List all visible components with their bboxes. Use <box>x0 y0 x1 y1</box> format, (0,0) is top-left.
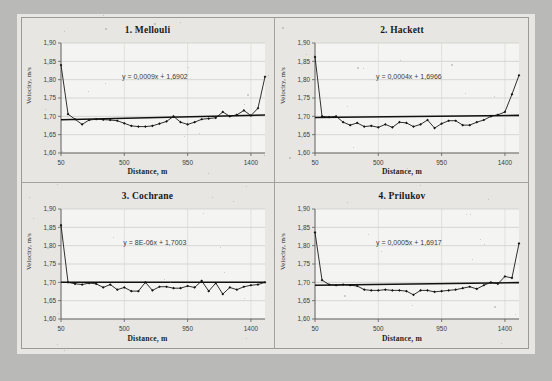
svg-text:1,90: 1,90 <box>298 39 311 46</box>
x-axis-label: Distance, m <box>21 167 274 176</box>
svg-text:1,75: 1,75 <box>44 260 57 267</box>
svg-text:1,75: 1,75 <box>44 94 57 101</box>
trendline-equation: y = 0,0009x + 1,6902 <box>122 73 188 81</box>
scan-speckle <box>188 67 189 68</box>
scan-speckle <box>105 83 106 84</box>
svg-text:50: 50 <box>57 159 65 166</box>
figure-page: 1. Mellouli Velocity, m/s 1,601,651,701,… <box>0 0 552 381</box>
svg-text:1,75: 1,75 <box>298 260 311 267</box>
svg-text:1,65: 1,65 <box>44 297 57 304</box>
svg-text:1,90: 1,90 <box>298 205 311 212</box>
svg-text:1,85: 1,85 <box>44 224 57 231</box>
svg-text:950: 950 <box>182 159 193 166</box>
chart-svg: 1,601,651,701,751,801,851,90505009501400… <box>275 203 529 349</box>
svg-text:1,85: 1,85 <box>298 58 311 65</box>
panel-title: 1. Mellouli <box>21 25 274 35</box>
svg-text:50: 50 <box>311 159 319 166</box>
panel-prilukov: 4. Prilukov Velocity, m/s 1,601,651,701,… <box>275 183 529 349</box>
svg-text:1400: 1400 <box>244 325 259 332</box>
svg-text:1,90: 1,90 <box>44 205 57 212</box>
svg-text:1,65: 1,65 <box>298 131 311 138</box>
svg-text:1,85: 1,85 <box>298 224 311 231</box>
svg-text:1,65: 1,65 <box>298 297 311 304</box>
svg-text:1,65: 1,65 <box>44 131 57 138</box>
svg-text:950: 950 <box>436 325 447 332</box>
svg-text:500: 500 <box>373 159 384 166</box>
svg-text:1,60: 1,60 <box>44 315 57 322</box>
trendline-equation: y = 0,0004x + 1,6966 <box>376 73 442 81</box>
scan-speckle <box>501 343 502 344</box>
scan-speckle <box>480 239 481 240</box>
scan-speckle <box>400 60 401 61</box>
svg-text:1,70: 1,70 <box>44 113 57 120</box>
scan-speckle <box>64 350 65 351</box>
scan-speckle <box>58 313 59 314</box>
svg-text:500: 500 <box>373 325 384 332</box>
scan-speckle <box>29 197 30 198</box>
svg-text:1400: 1400 <box>498 325 513 332</box>
panel-grid: 1. Mellouli Velocity, m/s 1,601,651,701,… <box>21 17 529 349</box>
panel-hackett: 2. Hackett Velocity, m/s 1,601,651,701,7… <box>275 17 529 183</box>
svg-text:1,80: 1,80 <box>44 242 57 249</box>
scan-speckle <box>407 168 408 169</box>
panel-title: 3. Cochrane <box>21 191 274 201</box>
panel-cochrane: 3. Cochrane Velocity, m/s 1,601,651,701,… <box>21 183 275 349</box>
panel-title: 4. Prilukov <box>275 191 529 201</box>
chart-svg: 1,601,651,701,751,801,851,90505009501400… <box>21 37 275 183</box>
svg-text:1,80: 1,80 <box>298 76 311 83</box>
trendline-equation: y = 0,0005x + 1,6917 <box>376 239 442 247</box>
svg-text:500: 500 <box>119 325 130 332</box>
svg-text:50: 50 <box>57 325 65 332</box>
svg-text:1,85: 1,85 <box>44 58 57 65</box>
plot-area: 1,601,651,701,751,801,851,90505009501400… <box>21 37 274 183</box>
scan-speckle <box>247 94 249 96</box>
plot-area: 1,601,651,701,751,801,851,90505009501400… <box>275 203 529 349</box>
svg-text:1,60: 1,60 <box>298 149 311 156</box>
svg-text:1,70: 1,70 <box>298 113 311 120</box>
svg-text:1400: 1400 <box>244 159 259 166</box>
scan-speckle <box>274 253 275 254</box>
scan-speckle <box>465 93 466 94</box>
scan-speckle <box>105 28 107 30</box>
plot-area: 1,601,651,701,751,801,851,90505009501400… <box>21 203 274 349</box>
plot-area: 1,601,651,701,751,801,851,90505009501400… <box>275 37 529 183</box>
svg-text:500: 500 <box>119 159 130 166</box>
scan-speckle <box>368 234 369 235</box>
panel-mellouli: 1. Mellouli Velocity, m/s 1,601,651,701,… <box>21 17 275 183</box>
svg-text:1,60: 1,60 <box>44 149 57 156</box>
scan-speckle <box>208 173 209 174</box>
x-axis-label: Distance, m <box>21 334 274 343</box>
svg-text:1,80: 1,80 <box>44 76 57 83</box>
x-axis-label: Distance, m <box>275 167 529 176</box>
scan-speckle <box>472 259 473 260</box>
svg-text:950: 950 <box>436 159 447 166</box>
svg-text:50: 50 <box>311 325 319 332</box>
scan-speckle <box>57 344 58 345</box>
scan-speckle <box>203 213 204 214</box>
svg-text:1,70: 1,70 <box>44 279 57 286</box>
svg-text:1,80: 1,80 <box>298 242 311 249</box>
chart-svg: 1,601,651,701,751,801,851,90505009501400… <box>21 203 275 349</box>
scan-speckle <box>88 91 89 92</box>
scan-speckle <box>347 106 348 107</box>
scan-speckle <box>494 96 495 97</box>
panel-title: 2. Hackett <box>275 25 529 35</box>
svg-text:1,90: 1,90 <box>44 39 57 46</box>
x-axis-label: Distance, m <box>275 334 529 343</box>
svg-text:1,60: 1,60 <box>298 315 311 322</box>
scan-speckle <box>260 95 262 97</box>
scan-speckle <box>357 67 359 69</box>
chart-svg: 1,601,651,701,751,801,851,90505009501400… <box>275 37 529 183</box>
svg-text:1,70: 1,70 <box>298 279 311 286</box>
svg-text:1400: 1400 <box>498 159 513 166</box>
svg-text:1,75: 1,75 <box>298 94 311 101</box>
trendline-equation: y = 8E-06x + 1,7003 <box>123 239 186 247</box>
